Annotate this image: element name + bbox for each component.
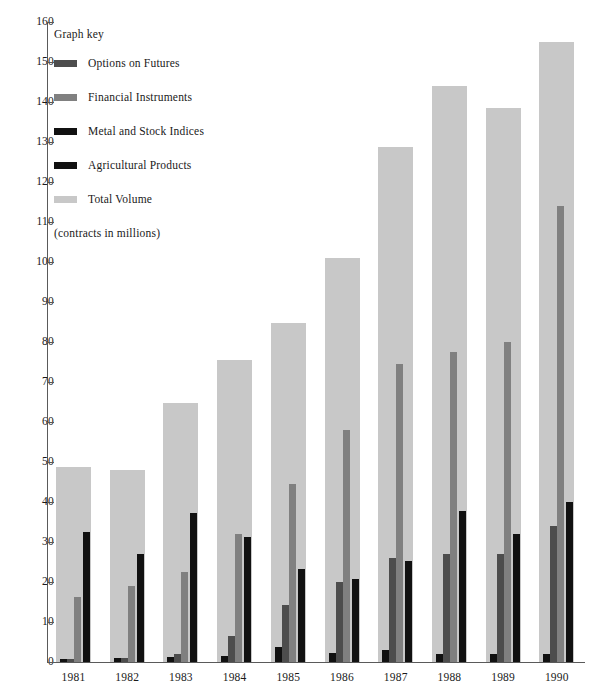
x-axis-line (47, 662, 585, 663)
bar-options-on-futures (336, 582, 343, 662)
y-axis-tick: 120 (0, 182, 54, 183)
y-axis-tick: 40 (0, 502, 54, 503)
x-axis-tick-label: 1989 (473, 671, 533, 683)
bar-options-on-futures (389, 558, 396, 662)
legend-swatch-icon (54, 128, 77, 135)
x-axis-tick-label: 1985 (258, 671, 318, 683)
bar-financial-instruments (289, 484, 296, 662)
legend-rows: Options on FuturesFinancial InstrumentsM… (54, 57, 284, 206)
bar-agricultural-products (382, 650, 389, 662)
bar-metal-and-stock-indices (405, 561, 412, 662)
bar-financial-instruments (128, 586, 135, 662)
bar-options-on-futures (121, 658, 128, 662)
bar-options-on-futures (550, 526, 557, 662)
bar-agricultural-products (329, 653, 336, 662)
y-axis-tick: 90 (0, 302, 54, 303)
y-axis-tick: 100 (0, 262, 54, 263)
legend-swatch-icon (54, 162, 77, 169)
legend-item: Total Volume (54, 193, 284, 206)
y-axis-tick: 0 (0, 662, 54, 663)
bar-financial-instruments (450, 352, 457, 662)
bar-agricultural-products (167, 657, 174, 662)
bar-options-on-futures (497, 554, 504, 662)
legend-item-label: Total Volume (88, 193, 152, 206)
bar-metal-and-stock-indices (244, 537, 251, 662)
legend-item: Agricultural Products (54, 159, 284, 172)
y-axis-tick: 10 (0, 622, 54, 623)
bar-chart: 0102030405060708090100110120130140150160… (0, 0, 589, 692)
bar-metal-and-stock-indices (83, 532, 90, 662)
bar-metal-and-stock-indices (137, 554, 144, 662)
y-axis-tick: 60 (0, 422, 54, 423)
y-axis-tick-mark (47, 662, 54, 663)
bar-agricultural-products (543, 654, 550, 662)
x-axis-tick-label: 1981 (44, 671, 104, 683)
bar-group (539, 22, 574, 662)
bar-metal-and-stock-indices (513, 534, 520, 662)
bar-financial-instruments (181, 572, 188, 662)
y-axis-tick: 130 (0, 142, 54, 143)
bar-options-on-futures (174, 654, 181, 662)
legend-swatch-icon (54, 196, 77, 203)
legend: Graph key Options on FuturesFinancial In… (54, 28, 284, 240)
x-axis-tick-label: 1982 (97, 671, 157, 683)
legend-item-label: Metal and Stock Indices (88, 125, 204, 138)
legend-item-label: Financial Instruments (88, 91, 192, 104)
x-axis-tick-label: 1987 (366, 671, 426, 683)
bar-financial-instruments (396, 364, 403, 662)
bar-options-on-futures (282, 605, 289, 662)
x-axis-tick-label: 1990 (527, 671, 587, 683)
x-axis-tick-label: 1983 (151, 671, 211, 683)
legend-item-label: Options on Futures (88, 57, 180, 70)
legend-item: Metal and Stock Indices (54, 125, 284, 138)
legend-item-label: Agricultural Products (88, 159, 192, 172)
bar-metal-and-stock-indices (566, 502, 573, 662)
legend-units-note: (contracts in millions) (54, 227, 284, 240)
legend-item: Options on Futures (54, 57, 284, 70)
y-axis-tick: 150 (0, 62, 54, 63)
y-axis-tick: 70 (0, 382, 54, 383)
legend-swatch-icon (54, 94, 77, 101)
bar-financial-instruments (343, 430, 350, 662)
bar-group (378, 22, 413, 662)
bar-financial-instruments (504, 342, 511, 662)
bar-agricultural-products (114, 658, 121, 662)
bar-metal-and-stock-indices (190, 513, 197, 662)
bar-financial-instruments (235, 534, 242, 662)
x-axis-tick-label: 1984 (205, 671, 265, 683)
x-axis-tick-label: 1988 (419, 671, 479, 683)
y-axis-tick: 80 (0, 342, 54, 343)
x-axis-tick-label: 1986 (312, 671, 372, 683)
bar-options-on-futures (443, 554, 450, 662)
bar-financial-instruments (74, 597, 81, 662)
bar-metal-and-stock-indices (298, 569, 305, 662)
y-axis-tick: 160 (0, 22, 54, 23)
bar-agricultural-products (221, 656, 228, 662)
legend-title: Graph key (54, 28, 284, 41)
legend-item: Financial Instruments (54, 91, 284, 104)
bar-metal-and-stock-indices (459, 511, 466, 662)
y-axis-tick: 110 (0, 222, 54, 223)
bar-agricultural-products (275, 647, 282, 662)
bar-metal-and-stock-indices (352, 579, 359, 662)
bar-group (432, 22, 467, 662)
bar-group (325, 22, 360, 662)
y-axis-tick: 20 (0, 582, 54, 583)
y-axis-tick: 30 (0, 542, 54, 543)
bar-financial-instruments (557, 206, 564, 662)
bar-options-on-futures (228, 636, 235, 662)
bar-agricultural-products (436, 654, 443, 662)
y-axis-tick: 50 (0, 462, 54, 463)
bar-agricultural-products (60, 659, 67, 662)
bar-options-on-futures (67, 659, 74, 662)
bar-agricultural-products (490, 654, 497, 662)
legend-swatch-icon (54, 60, 77, 67)
y-axis-tick: 140 (0, 102, 54, 103)
bar-group (486, 22, 521, 662)
